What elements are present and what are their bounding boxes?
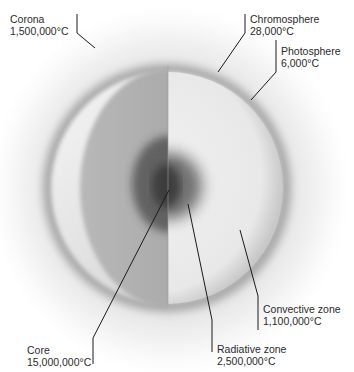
radiative-zone-temperature: 2,500,000°C [217,355,286,367]
label-core: Core 15,000,000°C [27,344,91,368]
convective-zone-temperature: 1,100,000°C [263,315,341,327]
corona-temperature: 1,500,000°C [10,25,69,37]
chromosphere-temperature: 28,000°C [250,25,319,37]
chromosphere-name: Chromosphere [250,13,319,25]
label-corona: Corona 1,500,000°C [10,13,69,37]
label-chromosphere: Chromosphere 28,000°C [250,13,319,37]
convective-zone-name: Convective zone [263,303,341,315]
sun-structure-diagram: Corona 1,500,000°C Chromosphere 28,000°C… [0,0,354,372]
radiative-zone-name: Radiative zone [217,343,286,355]
corona-name: Corona [10,13,69,25]
label-photosphere: Photosphere 6,000°C [281,45,341,69]
label-radiative-zone: Radiative zone 2,500,000°C [217,343,286,367]
core-temperature: 15,000,000°C [27,356,91,368]
core-name: Core [27,344,91,356]
photosphere-temperature: 6,000°C [281,57,341,69]
core [152,164,180,208]
photosphere-name: Photosphere [281,45,341,57]
label-convective-zone: Convective zone 1,100,000°C [263,303,341,327]
